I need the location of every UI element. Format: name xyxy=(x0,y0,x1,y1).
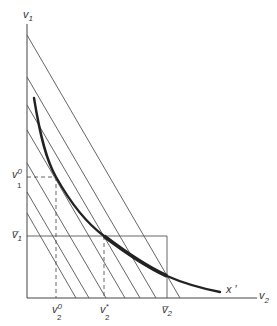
v1-zero-sub: 1 xyxy=(17,181,22,190)
reference-box xyxy=(27,236,167,298)
budget-line-6 xyxy=(27,192,89,298)
v2-star-sub: 2 xyxy=(105,313,110,322)
y-axis-label: v1 xyxy=(23,8,33,23)
diagram-canvas: v1 v2 x ′ v0 1 v̅1 v0 2 v* 2 v̅2 xyxy=(0,0,277,326)
v2-zero-sub: 2 xyxy=(57,313,62,322)
isoquant-curve xyxy=(34,98,220,292)
budget-line-4 xyxy=(27,130,125,298)
v1-zero-label: v0 xyxy=(12,167,23,180)
v2-bar-label: v̅2 xyxy=(162,303,173,318)
v1-bar-label: v̅1 xyxy=(12,228,22,243)
budget-line-2 xyxy=(27,77,156,298)
budget-line-5 xyxy=(27,163,106,298)
isoquant-thick-segment xyxy=(104,236,167,276)
axes xyxy=(27,24,257,298)
curve-label: x ′ xyxy=(225,283,238,295)
budget-line-3 xyxy=(27,105,140,298)
x-axis-label: v2 xyxy=(259,289,270,305)
budget-line-7 xyxy=(27,213,76,298)
